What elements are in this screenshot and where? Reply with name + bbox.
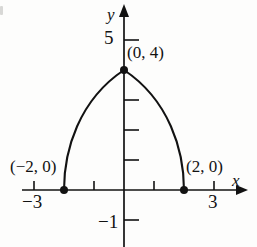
point-left-root — [60, 186, 68, 194]
y-tick-label-neg1: −1 — [98, 212, 118, 231]
vertex-point-label: (0, 4) — [127, 44, 164, 61]
left-root-point-label: (−2, 0) — [10, 158, 56, 175]
x-tick-label-neg3: −3 — [22, 192, 42, 211]
point-vertex — [120, 66, 128, 74]
right-root-point-label: (2, 0) — [186, 158, 223, 175]
x-tick-label-3: 3 — [208, 192, 218, 211]
point-right-root — [180, 186, 188, 194]
x-axis-label: x — [232, 172, 240, 189]
graph-figure: 5 −3 3 −1 (0, 4) (−2, 0) (2, 0) x y — [0, 0, 257, 247]
y-tick-label-5: 5 — [104, 28, 114, 47]
y-axis-label: y — [107, 6, 115, 23]
